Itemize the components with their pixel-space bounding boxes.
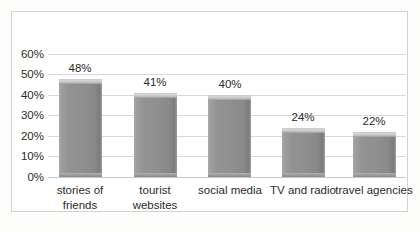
category-label-tourist-websites: tourist websites (113, 183, 197, 213)
bar-tourist-websites[interactable] (134, 93, 177, 177)
bar-bottom-shade (282, 173, 325, 177)
value-label-stories-of-friends: 48% (50, 62, 110, 75)
bar-bottom-shade (59, 173, 102, 177)
bar-top-highlight (282, 128, 325, 133)
category-label-line-1: travel agencies (332, 183, 416, 198)
bar-travel-agencies[interactable] (353, 132, 396, 177)
bar-stories-of-friends[interactable] (59, 79, 102, 177)
bar-chart: 60% 50% 40% 30% 20% 10% 0% 48% 41% 40% 2… (0, 0, 420, 232)
value-label-tourist-websites: 41% (125, 76, 185, 89)
axis-baseline (48, 177, 406, 178)
y-tick-label-30: 30% (12, 109, 44, 121)
bar-top-highlight (353, 132, 396, 137)
category-label-line-2: websites (113, 198, 197, 213)
gridline-60 (48, 54, 406, 55)
y-tick-label-20: 20% (12, 130, 44, 142)
bar-tv-and-radio[interactable] (282, 128, 325, 177)
bar-bottom-shade (208, 173, 251, 177)
y-tick-label-0: 0% (12, 171, 44, 183)
value-label-tv-and-radio: 24% (273, 111, 333, 124)
category-label-stories-of-friends: stories of friends (38, 183, 122, 213)
y-tick-label-10: 10% (12, 150, 44, 162)
category-label-social-media: social media (188, 183, 272, 198)
bar-bottom-shade (134, 173, 177, 177)
bar-top-highlight (208, 95, 251, 100)
category-label-line-1: tourist (113, 183, 197, 198)
category-label-line-1: stories of (38, 183, 122, 198)
value-label-travel-agencies: 22% (344, 115, 404, 128)
bar-social-media[interactable] (208, 95, 251, 177)
y-tick-label-50: 50% (12, 68, 44, 80)
bar-top-highlight (134, 93, 177, 98)
y-tick-label-40: 40% (12, 89, 44, 101)
bar-bottom-shade (353, 173, 396, 177)
bar-top-highlight (59, 79, 102, 84)
category-label-line-2: friends (38, 198, 122, 213)
category-label-line-1: social media (188, 183, 272, 198)
value-label-social-media: 40% (200, 78, 260, 91)
y-tick-label-60: 60% (12, 48, 44, 60)
category-label-travel-agencies: travel agencies (332, 183, 416, 198)
